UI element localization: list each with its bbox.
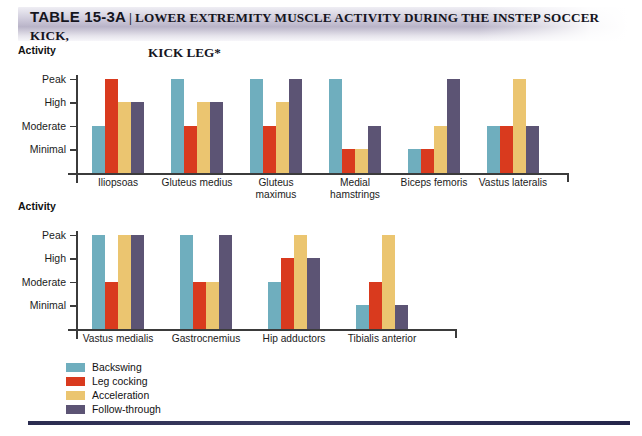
chart-lower: Activity MinimalModerateHighPeak Vastus … <box>0 200 642 348</box>
bar-backswing[interactable] <box>171 79 184 173</box>
bar-follow-through[interactable] <box>131 235 144 329</box>
bar-acceleration[interactable] <box>513 79 526 173</box>
bar-group-bars <box>408 53 460 173</box>
legend-item[interactable]: Leg cocking <box>66 375 161 387</box>
bar-leg-cocking[interactable] <box>263 126 276 173</box>
legend-label: Acceleration <box>92 390 149 401</box>
bar-leg-cocking[interactable] <box>105 282 118 329</box>
category-label: Hip adductors <box>263 333 326 345</box>
footer-rule <box>28 421 630 425</box>
bar-group: Medialhamstrings <box>329 53 381 173</box>
bar-follow-through[interactable] <box>395 305 408 329</box>
category-label-line: Medial <box>330 177 380 189</box>
chart2-y-tick-label-moderate: Moderate <box>22 276 66 288</box>
chart2-y-tick <box>70 282 77 283</box>
bar-group: Tibialis anterior <box>356 209 408 329</box>
bar-acceleration[interactable] <box>434 126 447 173</box>
category-label: Vastus lateralis <box>479 177 547 189</box>
bar-follow-through[interactable] <box>447 79 460 173</box>
chart1-x-axis <box>68 173 567 175</box>
bar-acceleration[interactable] <box>118 235 131 329</box>
bar-leg-cocking[interactable] <box>281 258 294 329</box>
bar-group: Gluteus medius <box>171 53 223 173</box>
bar-group-bars <box>92 209 144 329</box>
bar-leg-cocking[interactable] <box>193 282 206 329</box>
table-title-line-2: KICK LEG* <box>148 45 630 61</box>
legend-label: Follow-through <box>92 404 161 415</box>
chart2-y-tick-label-high: High <box>44 252 66 264</box>
chart2-y-axis <box>76 231 78 339</box>
chart2-x-axis-end-tick <box>455 329 457 338</box>
legend-swatch-acceleration <box>66 391 85 400</box>
chart-lower-y-axis-title: Activity <box>18 200 56 212</box>
category-label-line: Tibialis anterior <box>348 333 417 345</box>
bar-leg-cocking[interactable] <box>342 149 355 173</box>
legend-swatch-follow-through <box>66 405 85 414</box>
chart-lower-plot: MinimalModerateHighPeak Vastus medialisG… <box>0 214 642 334</box>
legend-item[interactable]: Acceleration <box>66 389 161 401</box>
bar-follow-through[interactable] <box>368 126 381 173</box>
bar-leg-cocking[interactable] <box>500 126 513 173</box>
category-label: Iliopsoas <box>98 177 138 189</box>
bar-follow-through[interactable] <box>210 102 223 173</box>
category-label-line: Vastus medialis <box>83 333 154 345</box>
category-label-line: Gastrocnemius <box>172 333 241 345</box>
bar-follow-through[interactable] <box>289 79 302 173</box>
chart2-y-tick-label-peak: Peak <box>42 229 66 241</box>
category-label-line: Hip adductors <box>263 333 326 345</box>
bar-acceleration[interactable] <box>118 102 131 173</box>
chart1-x-axis-end-tick <box>567 173 569 182</box>
bar-follow-through[interactable] <box>131 102 144 173</box>
table-number: TABLE 15-3A <box>30 8 126 25</box>
bar-backswing[interactable] <box>268 282 281 329</box>
bar-leg-cocking[interactable] <box>369 282 382 329</box>
bar-acceleration[interactable] <box>355 149 368 173</box>
chart2-y-tick <box>70 305 77 306</box>
chart-upper-plot: MinimalModerateHighPeak IliopsoasGluteus… <box>0 58 642 178</box>
bar-backswing[interactable] <box>180 235 193 329</box>
bar-backswing[interactable] <box>487 126 500 173</box>
bar-group-bars <box>487 53 539 173</box>
bar-backswing[interactable] <box>92 126 105 173</box>
bar-leg-cocking[interactable] <box>105 79 118 173</box>
bar-acceleration[interactable] <box>294 235 307 329</box>
category-label-line: Biceps femoris <box>401 177 468 189</box>
chart1-y-tick-label-peak: Peak <box>42 73 66 85</box>
bar-backswing[interactable] <box>92 235 105 329</box>
bar-backswing[interactable] <box>329 79 342 173</box>
table-header-text: TABLE 15-3A|LOWER EXTREMITY MUSCLE ACTIV… <box>30 8 630 61</box>
category-label: Vastus medialis <box>83 333 154 345</box>
bar-follow-through[interactable] <box>307 258 320 329</box>
bar-acceleration[interactable] <box>206 282 219 329</box>
bar-leg-cocking[interactable] <box>184 126 197 173</box>
category-label-line: maximus <box>256 189 297 201</box>
bar-group-bars <box>180 209 232 329</box>
bar-acceleration[interactable] <box>197 102 210 173</box>
bar-backswing[interactable] <box>356 305 369 329</box>
legend-swatch-backswing <box>66 363 85 372</box>
bar-group: Vastus medialis <box>92 209 144 329</box>
bar-acceleration[interactable] <box>382 235 395 329</box>
bar-follow-through[interactable] <box>526 126 539 173</box>
category-label-line: Gluteus <box>256 177 297 189</box>
legend-item[interactable]: Follow-through <box>66 403 161 415</box>
category-label-line: Gluteus medius <box>162 177 233 189</box>
bar-group-bars <box>268 209 320 329</box>
bar-backswing[interactable] <box>408 149 421 173</box>
bar-group: Hip adductors <box>268 209 320 329</box>
legend-label: Leg cocking <box>92 376 147 387</box>
category-label: Tibialis anterior <box>348 333 417 345</box>
chart1-y-tick <box>70 149 77 150</box>
bar-group-bars <box>250 53 302 173</box>
bar-group: Vastus lateralis <box>487 53 539 173</box>
bar-acceleration[interactable] <box>276 102 289 173</box>
bar-leg-cocking[interactable] <box>421 149 434 173</box>
legend-item[interactable]: Backswing <box>66 361 161 373</box>
chart1-y-tick <box>70 79 77 80</box>
bar-group: Biceps femoris <box>408 53 460 173</box>
chart-legend: BackswingLeg cockingAccelerationFollow-t… <box>66 361 161 417</box>
bar-group: Iliopsoas <box>92 53 144 173</box>
bar-follow-through[interactable] <box>219 235 232 329</box>
bar-backswing[interactable] <box>250 79 263 173</box>
table-separator: | <box>126 10 135 25</box>
